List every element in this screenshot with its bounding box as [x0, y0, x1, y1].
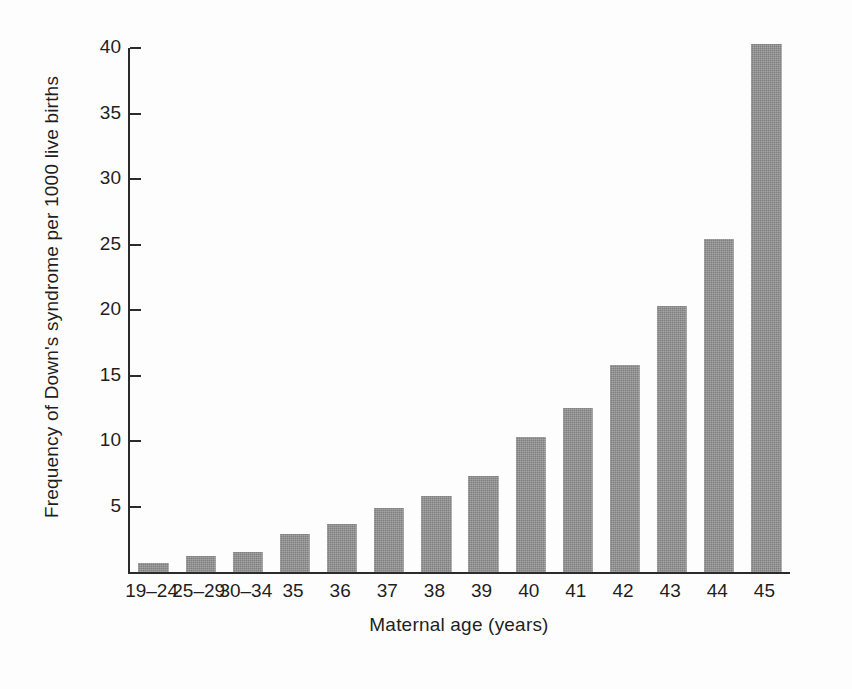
bar	[421, 496, 451, 572]
bar	[704, 239, 734, 572]
bar-slot	[610, 48, 640, 572]
chart-figure: Frequency of Down's syndrome per 1000 li…	[0, 0, 852, 689]
y-axis-tick-label: 10	[100, 429, 121, 451]
y-axis-title: Frequency of Down's syndrome per 1000 li…	[41, 37, 63, 557]
y-axis-tick-label: 20	[100, 298, 121, 320]
bar-slot	[751, 48, 781, 572]
bar-slot	[186, 48, 216, 572]
bar	[563, 408, 593, 572]
bar	[280, 534, 310, 572]
bar-slot	[374, 48, 404, 572]
x-axis-title: Maternal age (years)	[128, 614, 790, 636]
bar	[186, 556, 216, 572]
bar-slot	[563, 48, 593, 572]
bar-slot	[138, 48, 168, 572]
x-axis-line	[128, 572, 790, 574]
bar	[751, 44, 781, 572]
bar-slot	[468, 48, 498, 572]
x-axis-tick-label: 45	[733, 580, 796, 602]
y-axis-tick-label: 40	[100, 36, 121, 58]
bar	[516, 437, 546, 572]
bar-slot	[280, 48, 310, 572]
bar	[610, 365, 640, 572]
bar	[327, 524, 357, 572]
bar-slot	[421, 48, 451, 572]
bar	[657, 306, 687, 572]
bar	[233, 552, 263, 572]
y-axis-tick-label: 15	[100, 364, 121, 386]
bar-series	[130, 48, 790, 572]
y-axis-tick-label: 5	[110, 495, 121, 517]
plot-area: 510152025303540 19–2425–2930–34353637383…	[128, 48, 790, 572]
y-axis-tick-label: 35	[100, 102, 121, 124]
bar-slot	[327, 48, 357, 572]
y-axis-tick-label: 30	[100, 167, 121, 189]
bar-slot	[657, 48, 687, 572]
bar	[138, 563, 168, 572]
y-axis-tick-label: 25	[100, 233, 121, 255]
bar-slot	[233, 48, 263, 572]
bar-slot	[516, 48, 546, 572]
bar	[468, 476, 498, 572]
bar-slot	[704, 48, 734, 572]
bar	[374, 508, 404, 572]
